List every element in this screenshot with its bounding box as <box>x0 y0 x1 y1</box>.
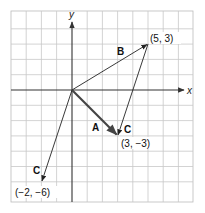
point-label-3-m3: (3, −3) <box>121 138 150 149</box>
vector-b-label: B <box>117 46 124 57</box>
vector-c-lower-label: C <box>33 165 40 176</box>
point-label-5-3: (5, 3) <box>150 33 173 44</box>
vector-b-arrow <box>72 45 147 91</box>
vector-c-upper-label: C <box>124 124 131 135</box>
vector-diagram: x y B A C C (5, 3) (3, −3) (−2, −6) <box>0 0 205 213</box>
x-axis-label: x <box>186 85 193 96</box>
point-label-m2-m6: (−2, −6) <box>15 187 50 198</box>
y-axis-label: y <box>68 9 75 20</box>
vector-a-label: A <box>92 122 99 133</box>
